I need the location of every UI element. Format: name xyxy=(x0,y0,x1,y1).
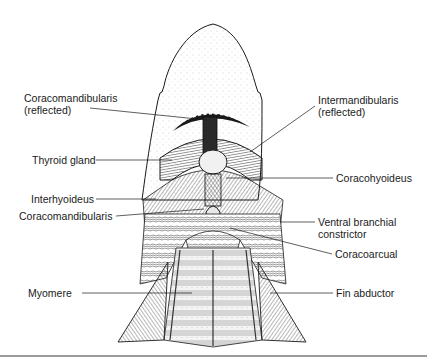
thyroid-gland xyxy=(199,150,227,174)
label-fin-abductor: Fin abductor xyxy=(336,287,394,299)
label-myomere: Myomere xyxy=(28,287,72,299)
label-coracoarcual: Coracoarcual xyxy=(335,248,397,260)
label-coracohyoideus: Coracohyoideus xyxy=(336,172,412,184)
bottom-divider xyxy=(0,355,427,357)
label-thyroid-gland: Thyroid gland xyxy=(32,154,96,166)
label-line: (reflected) xyxy=(318,106,399,118)
label-line: constrictor xyxy=(318,228,396,240)
label-coracomandibularis: Coracomandibularis xyxy=(19,210,112,222)
label-intermandibularis-reflected: Intermandibularis (reflected) xyxy=(318,94,399,118)
label-coracomandibularis-reflected: Coracomandibularis (reflected) xyxy=(24,92,117,116)
label-ventral-branchial-constrictor: Ventral branchial constrictor xyxy=(318,216,396,240)
label-line: Intermandibularis xyxy=(318,94,399,106)
coracohyoideus-muscle xyxy=(205,174,221,206)
label-line: Ventral branchial xyxy=(318,216,396,228)
label-line: (reflected) xyxy=(24,104,117,116)
label-interhyoideus: Interhyoideus xyxy=(31,193,94,205)
label-line: Coracomandibularis xyxy=(24,92,117,104)
